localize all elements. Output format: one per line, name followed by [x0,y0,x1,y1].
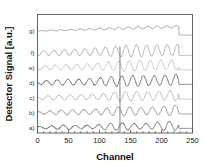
trace-label-a: a) [29,124,35,131]
x-axis-tick-label: 150 [124,136,137,145]
x-axis-tick-label: 200 [155,136,168,145]
x-axis-tick-label: 100 [93,136,106,145]
trace-label-g: g) [29,27,35,34]
chart-figure: 050100150200250 a)b)c)d)e)f)g) Channel D… [0,0,204,166]
trace-label-f: f) [31,49,35,56]
trace-label-d: d) [29,79,35,86]
trace-label-b: b) [29,109,35,116]
x-axis-tick-label: 250 [186,136,199,145]
y-axis-title: Detector Signal [a.u.] [3,26,14,121]
detector-signal-chart: 050100150200250 a)b)c)d)e)f)g) Channel D… [0,0,204,166]
trace-label-c: c) [29,94,34,101]
x-axis-tick-label: 0 [35,136,39,145]
x-axis-tick-label: 50 [64,136,72,145]
x-axis-title: Channel [96,151,133,162]
trace-label-e: e) [29,64,35,71]
